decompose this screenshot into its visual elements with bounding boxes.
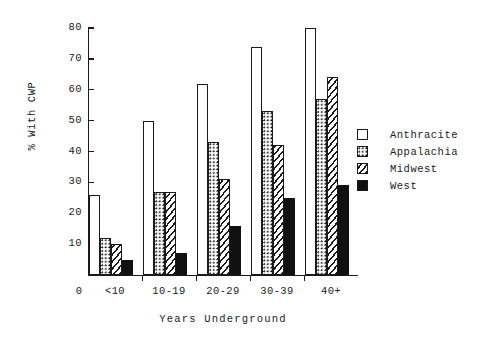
legend-item-midwest[interactable]: Midwest — [357, 160, 458, 177]
bar-midwest-20-29 — [219, 179, 230, 275]
y-axis-tick-label: 70 — [52, 52, 82, 64]
legend-item-appalachia[interactable]: Appalachia — [357, 143, 458, 160]
bar-group — [89, 28, 133, 275]
bar-group — [197, 28, 241, 275]
x-axis-separator — [250, 275, 251, 281]
x-axis-separator — [196, 275, 197, 281]
y-axis-tick-label: 80 — [52, 21, 82, 33]
bar-anthracite-30-39 — [251, 47, 262, 275]
legend-item-label: Appalachia — [390, 146, 458, 158]
bar-anthracite-20-29 — [197, 84, 208, 275]
y-axis-origin-label: 0 — [52, 285, 82, 297]
x-axis-title: Years Underground — [88, 313, 358, 325]
bar-midwest-lt10 — [111, 244, 122, 275]
bar-west-40plus — [338, 185, 349, 275]
bar-group — [251, 28, 295, 275]
bar-west-20-29 — [230, 226, 241, 275]
bar-appalachia-20-29 — [208, 142, 219, 275]
x-axis-tick-label: <10 — [88, 285, 142, 297]
legend-item-label: West — [390, 180, 417, 192]
bar-anthracite-10-19 — [143, 121, 154, 275]
x-axis-tick-label: 30-39 — [250, 285, 304, 297]
y-axis-tick-label: 60 — [52, 83, 82, 95]
bar-anthracite-40plus — [305, 28, 316, 275]
legend-swatch-empty-icon — [357, 129, 368, 140]
y-axis-tick-label: 30 — [52, 175, 82, 187]
bar-appalachia-30-39 — [262, 111, 273, 275]
legend-swatch-solid-icon — [357, 180, 368, 191]
plot-area — [88, 28, 358, 275]
bar-anthracite-lt10 — [89, 195, 100, 275]
x-axis-tick-label: 10-19 — [142, 285, 196, 297]
x-axis-separator — [142, 275, 143, 281]
legend-swatch-hatch-icon — [357, 163, 368, 174]
y-axis-tick-label: 40 — [52, 145, 82, 157]
x-axis-separator — [304, 275, 305, 281]
bar-group — [305, 28, 349, 275]
bar-appalachia-10-19 — [154, 192, 165, 275]
bar-midwest-30-39 — [273, 145, 284, 275]
bar-appalachia-lt10 — [100, 238, 111, 275]
legend-item-label: Anthracite — [390, 129, 458, 141]
bar-appalachia-40plus — [316, 99, 327, 275]
legend-item-label: Midwest — [390, 163, 438, 175]
y-axis-tick-label: 20 — [52, 206, 82, 218]
bar-chart: % With CWP 1020304050607080 <1010-1920-2… — [0, 0, 500, 344]
legend-item-anthracite[interactable]: Anthracite — [357, 126, 458, 143]
y-axis-tick-label: 50 — [52, 114, 82, 126]
legend-swatch-dots-icon — [357, 146, 368, 157]
bar-midwest-10-19 — [165, 192, 176, 275]
bar-west-lt10 — [122, 260, 133, 275]
y-axis-tick-label: 10 — [52, 237, 82, 249]
bar-west-30-39 — [284, 198, 295, 275]
x-axis-tick-label: 40+ — [304, 285, 358, 297]
bar-group — [143, 28, 187, 275]
bar-west-10-19 — [176, 253, 187, 275]
legend: AnthraciteAppalachiaMidwestWest — [357, 126, 458, 194]
x-axis-tick-label: 20-29 — [196, 285, 250, 297]
legend-item-west[interactable]: West — [357, 177, 458, 194]
bar-midwest-40plus — [327, 77, 338, 275]
y-axis-title: % With CWP — [26, 56, 38, 176]
x-axis-line — [88, 275, 358, 276]
